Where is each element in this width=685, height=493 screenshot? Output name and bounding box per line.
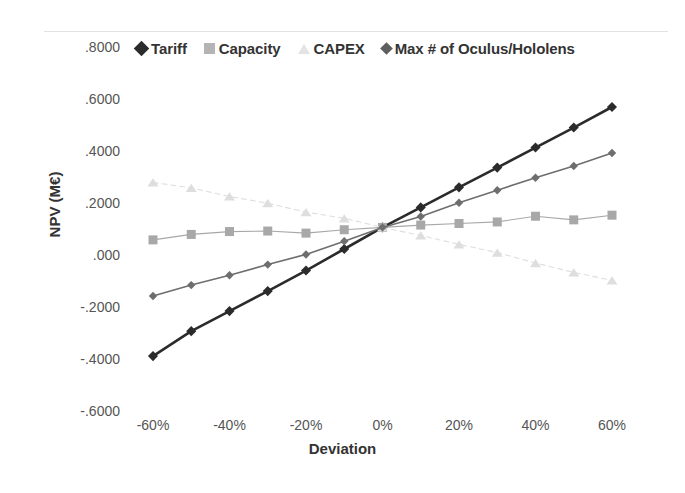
data-point-diamond	[225, 271, 233, 279]
data-point-square	[608, 211, 617, 220]
data-point-triangle	[454, 240, 465, 248]
data-point-square	[416, 221, 425, 230]
data-point-triangle	[568, 268, 579, 276]
data-point-diamond	[263, 286, 273, 296]
data-point-triangle	[224, 192, 235, 200]
data-point-diamond	[493, 186, 501, 194]
data-point-triangle	[339, 214, 350, 222]
data-point-diamond	[224, 306, 234, 316]
data-point-diamond	[454, 182, 464, 192]
data-point-triangle	[530, 259, 541, 267]
data-point-diamond	[455, 199, 463, 207]
data-point-diamond	[264, 260, 272, 268]
data-point-diamond	[530, 143, 540, 153]
data-point-triangle	[186, 184, 197, 192]
data-point-diamond	[187, 281, 195, 289]
plot-area	[0, 0, 685, 493]
series-max-of-oculus-hololens	[149, 149, 616, 300]
data-point-diamond	[149, 292, 157, 300]
data-point-square	[187, 230, 196, 239]
data-point-diamond	[302, 250, 310, 258]
data-point-diamond	[492, 163, 502, 173]
data-point-square	[149, 235, 158, 244]
data-point-diamond	[608, 149, 616, 157]
data-point-diamond	[570, 162, 578, 170]
data-point-triangle	[607, 276, 618, 284]
data-point-diamond	[340, 237, 348, 245]
data-point-square	[225, 227, 234, 236]
data-point-square	[493, 217, 502, 226]
data-point-square	[569, 215, 578, 224]
data-point-square	[340, 225, 349, 234]
data-point-diamond	[569, 123, 579, 133]
data-point-diamond	[607, 102, 617, 112]
data-point-diamond	[417, 212, 425, 220]
data-point-diamond	[301, 266, 311, 276]
data-point-triangle	[415, 231, 426, 239]
data-point-square	[302, 229, 311, 238]
sensitivity-chart: Tariff Capacity CAPEX Max # of Oculus/Ho…	[0, 0, 685, 493]
data-point-diamond	[416, 202, 426, 212]
data-point-diamond	[531, 174, 539, 182]
data-point-square	[263, 227, 272, 236]
data-point-triangle	[492, 248, 503, 256]
data-point-triangle	[262, 199, 273, 207]
data-point-square	[455, 219, 464, 228]
data-point-square	[531, 212, 540, 221]
data-point-triangle	[301, 208, 312, 216]
